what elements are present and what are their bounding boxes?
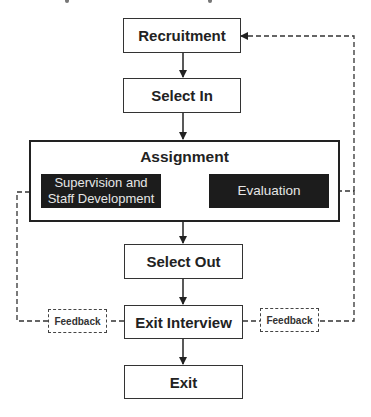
node-label-line2: Staff Development [48, 191, 155, 207]
feedback-box-left: Feedback [48, 309, 107, 333]
node-label: Exit [170, 374, 198, 391]
node-label: Evaluation [237, 183, 300, 199]
node-select-out: Select Out [124, 244, 243, 279]
node-label: Exit Interview [135, 314, 232, 331]
feedback-label: Feedback [54, 316, 100, 327]
assignment-title: Assignment [31, 148, 338, 166]
node-recruitment: Recruitment [123, 18, 241, 53]
node-label-line1: Supervision and [48, 175, 155, 191]
node-supervision-staff-development: Supervision and Staff Development [41, 174, 161, 208]
node-label: Select In [151, 87, 213, 104]
node-evaluation: Evaluation [209, 174, 329, 208]
feedback-label: Feedback [266, 315, 312, 326]
node-exit-interview: Exit Interview [124, 305, 243, 339]
node-exit: Exit [124, 365, 243, 399]
node-label: Recruitment [138, 27, 226, 44]
node-select-in: Select In [123, 78, 241, 113]
feedback-box-right: Feedback [260, 308, 319, 332]
node-label: Select Out [146, 253, 220, 270]
